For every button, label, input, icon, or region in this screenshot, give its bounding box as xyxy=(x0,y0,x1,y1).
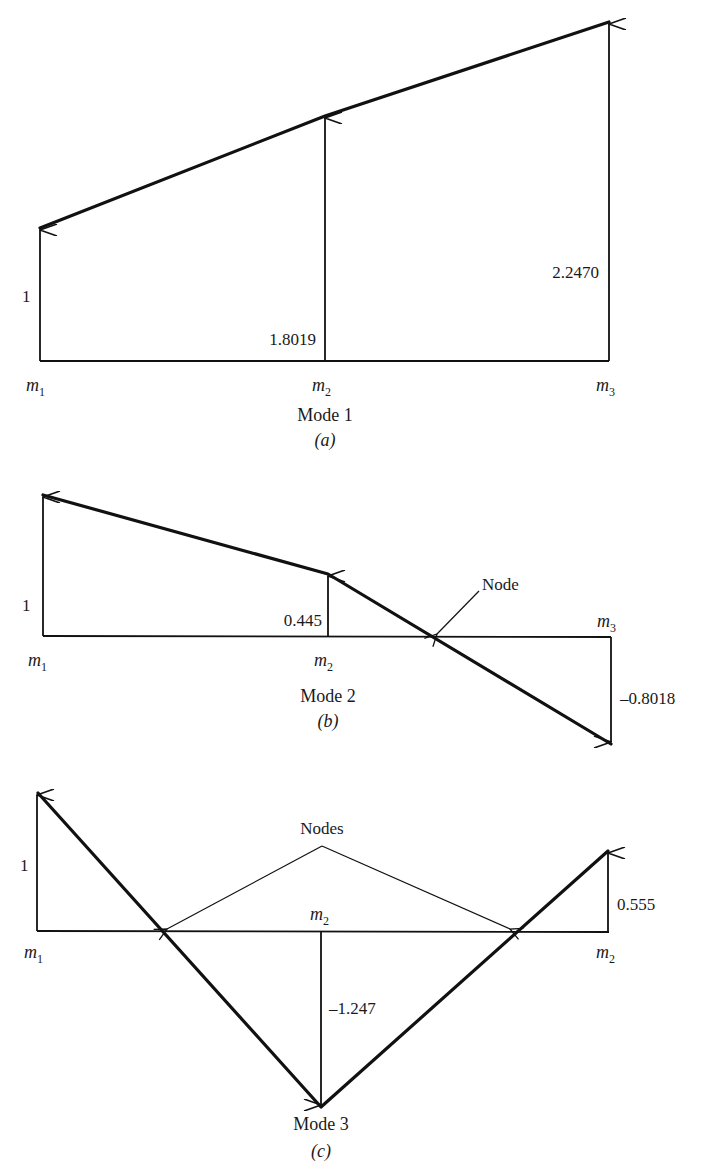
mode-title-b: Mode 2 xyxy=(300,686,356,706)
baseline-b xyxy=(43,636,611,637)
mass-label-m3-c: m2 xyxy=(596,942,615,966)
amp-label-m1-c: 1 xyxy=(20,856,29,875)
mass-label-m2-b: m2 xyxy=(314,650,333,674)
amp-label-m3-a: 2.2470 xyxy=(552,263,599,282)
amp-label-m1-b: 1 xyxy=(22,596,31,615)
mass-label-m1-b: m1 xyxy=(28,650,47,674)
amp-label-m1-a: 1 xyxy=(22,287,31,306)
mode-shape-line-c xyxy=(38,793,608,1107)
amp-label-m2-c: –1.247 xyxy=(328,999,376,1018)
amp-label-m3-c: 0.555 xyxy=(617,895,655,914)
mode-title-c: Mode 3 xyxy=(293,1114,349,1134)
mode-shape-line-b xyxy=(43,495,611,744)
baseline-c xyxy=(37,931,609,932)
node-label-b: Node xyxy=(482,575,519,594)
panel-label-c: (c) xyxy=(311,1141,331,1162)
mass-label-m1-a: m1 xyxy=(26,375,45,399)
mass-label-m1-c: m1 xyxy=(24,942,43,966)
node-pointer-left-c xyxy=(167,846,322,929)
node-pointer-b xyxy=(437,591,479,634)
mass-label-m3-a: m3 xyxy=(596,375,615,399)
node-pointer-right-c xyxy=(322,846,510,929)
amp-label-m2-b: 0.445 xyxy=(284,611,322,630)
panel-b-mode-2: Node 1 0.445 –0.8018 m1 m2 m3 Mode 2 (b) xyxy=(22,495,675,744)
mode-title-a: Mode 1 xyxy=(297,405,353,425)
panel-a-mode-1: 1 1.8019 2.2470 m1 m2 m3 Mode 1 (a) xyxy=(22,22,615,451)
panel-c-mode-3: Nodes 1 –1.247 0.555 m1 m2 m2 Mode 3 (c) xyxy=(20,793,655,1162)
mass-label-m2-a: m2 xyxy=(312,375,331,399)
mass-label-m3-b: m3 xyxy=(597,611,616,635)
panel-label-b: (b) xyxy=(318,711,339,732)
amp-label-m2-a: 1.8019 xyxy=(269,330,316,349)
mode-shapes-diagram: 1 1.8019 2.2470 m1 m2 m3 Mode 1 (a) Node… xyxy=(0,0,702,1169)
panel-label-a: (a) xyxy=(315,430,336,451)
mass-label-m2-c: m2 xyxy=(310,904,329,928)
amp-label-m3-b: –0.8018 xyxy=(619,689,675,708)
nodes-label-c: Nodes xyxy=(300,819,343,838)
